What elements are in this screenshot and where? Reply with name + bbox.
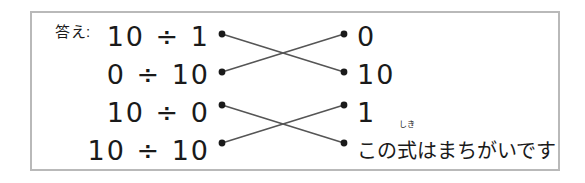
ruby-reading: しき	[399, 121, 416, 129]
equation-row: 10 ÷ 0	[60, 94, 210, 132]
ruby-annotation: しき式	[397, 132, 417, 170]
answer-column: 0 10 1 このしき式はまちがいです	[357, 18, 557, 170]
equation-row: 0 ÷ 10	[60, 56, 210, 94]
equation-row: 10 ÷ 10	[60, 132, 210, 170]
note-prefix: この	[357, 139, 397, 163]
answer-row: 0	[357, 18, 557, 56]
answer-row-note: このしき式はまちがいです	[357, 132, 557, 170]
note-suffix: はまちがいです	[417, 139, 556, 163]
equation-column: 10 ÷ 1 0 ÷ 10 10 ÷ 0 10 ÷ 10	[60, 18, 210, 170]
worksheet-answer-panel: 答え: 10 ÷ 1 0 ÷ 10 10 ÷ 0 10 ÷ 10 0 10 1 …	[0, 0, 585, 183]
ruby-base-kanji: 式	[397, 132, 417, 170]
equation-row: 10 ÷ 1	[60, 18, 210, 56]
answer-row: 1	[357, 94, 557, 132]
answer-row: 10	[357, 56, 557, 94]
